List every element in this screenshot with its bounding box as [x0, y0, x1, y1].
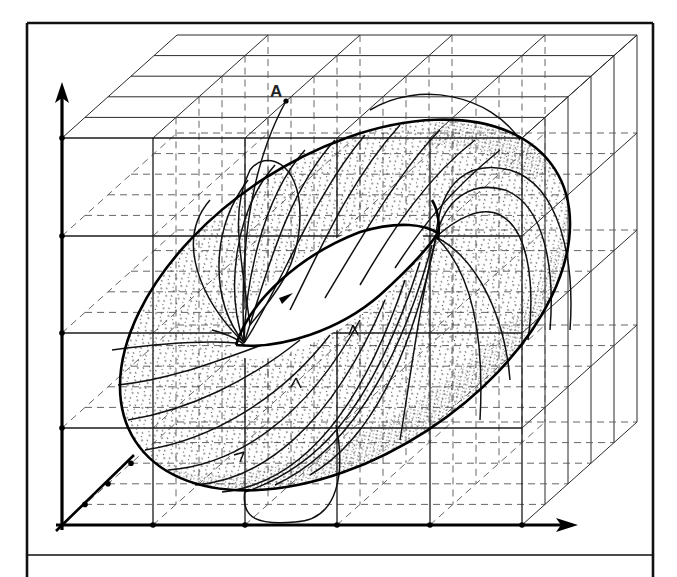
axis-tick — [519, 522, 525, 528]
grid-line — [245, 35, 360, 138]
grid-line — [522, 325, 637, 428]
axis-tick — [242, 522, 248, 528]
grid-line — [62, 35, 177, 138]
axis-tick — [59, 425, 65, 431]
axis-tick — [128, 460, 134, 466]
axis-tick — [334, 522, 340, 528]
torus-flow-figure: A — [0, 0, 677, 577]
depth-axis — [56, 455, 134, 531]
axis-tick — [105, 481, 111, 487]
grid-line — [522, 35, 637, 138]
grid-line — [522, 422, 637, 525]
axis-tick — [150, 522, 156, 528]
grid-line — [153, 35, 268, 138]
axis-tick — [59, 330, 65, 336]
point-a-marker: A — [270, 82, 289, 104]
axis-tick — [82, 502, 88, 508]
grid-line — [430, 422, 545, 525]
axis-tick — [59, 135, 65, 141]
axis-tick — [427, 522, 433, 528]
torus: A — [54, 43, 637, 567]
grid-line — [62, 133, 177, 236]
point-a-label: A — [270, 82, 282, 101]
axis-tick — [59, 233, 65, 239]
